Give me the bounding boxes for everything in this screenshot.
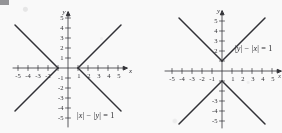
right-ytick-label--5: -5 (212, 117, 218, 124)
figure-root: -5 -4 -3 -2 1 2 3 4 5 5 4 3 2 1 -1 -2 -3… (0, 0, 282, 133)
left-eq-equals: = (103, 111, 108, 120)
right-ytick-label-5: 5 (214, 17, 218, 24)
left-eq-bar-close-1: | (83, 111, 85, 120)
left-xtick-label-1: 1 (77, 72, 80, 79)
left-curve-branch-left-upper (15, 25, 58, 68)
plot-panel-left: -5 -4 -3 -2 1 2 3 4 5 5 4 3 2 1 -1 -2 -3… (0, 0, 141, 133)
right-eq-rhs: 1 (268, 44, 272, 53)
left-ytick-label-2: 2 (60, 44, 63, 51)
right-plot-svg: -5 -4 -3 -2 -1 1 2 3 4 5 5 4 3 2 -3 -4 -… (141, 0, 282, 133)
left-xtick-label--3: -3 (35, 72, 41, 79)
left-ytick-label-1: 1 (60, 54, 63, 61)
left-ytick-label--1: -1 (58, 74, 64, 81)
left-ytick-label--4: -4 (58, 104, 64, 111)
left-eq-operator: − (87, 111, 92, 120)
plot-panel-right: -5 -4 -3 -2 -1 1 2 3 4 5 5 4 3 2 -3 -4 -… (141, 0, 282, 133)
left-eq-bar-close-2: | (99, 111, 101, 120)
left-plot-svg: -5 -4 -3 -2 1 2 3 4 5 5 4 3 2 1 -1 -2 -3… (0, 0, 141, 133)
right-y-axis-label: y (216, 7, 221, 15)
right-xtick-label-1: 1 (231, 75, 234, 82)
right-curve-branch-upper-right (222, 18, 265, 61)
left-xtick-label-3: 3 (97, 72, 101, 79)
right-eq-bar-close-1: | (241, 44, 243, 53)
right-xtick-label-2: 2 (241, 75, 244, 82)
right-equation-label: |y| − |x| = 1 (235, 44, 272, 53)
left-curve-branch-right-upper (78, 25, 121, 68)
right-curve-branch-lower-right (222, 81, 265, 124)
left-eq-rhs: 1 (110, 111, 114, 120)
right-xtick-label--5: -5 (169, 75, 175, 82)
right-y-axis-arrow (220, 11, 223, 15)
scan-artifact-corner (0, 0, 9, 5)
right-xtick-label-3: 3 (251, 75, 255, 82)
left-xtick-label-2: 2 (87, 72, 90, 79)
left-xtick-label--5: -5 (15, 72, 21, 79)
left-xtick-label--2: -2 (45, 72, 51, 79)
right-xtick-label--1: -1 (209, 75, 215, 82)
left-ytick-label-4: 4 (60, 24, 64, 31)
right-xtick-label--2: -2 (199, 75, 205, 82)
right-xtick-label-5: 5 (271, 75, 275, 82)
right-eq-operator: − (245, 44, 250, 53)
left-x-axis-arrow (123, 66, 127, 69)
right-ytick-label--4: -4 (212, 107, 218, 114)
left-ytick-label--2: -2 (58, 84, 64, 91)
left-ytick-label--5: -5 (58, 114, 64, 121)
left-ytick-label--3: -3 (58, 94, 64, 101)
left-xtick-label-5: 5 (117, 72, 121, 79)
right-eq-equals: = (261, 44, 266, 53)
right-ytick-label-4: 4 (214, 27, 218, 34)
right-x-axis-label: x (277, 72, 282, 80)
right-eq-bar-close-2: | (257, 44, 259, 53)
left-xtick-label--4: -4 (25, 72, 31, 79)
right-ytick-label-2: 2 (214, 47, 217, 54)
left-y-axis-arrow (66, 12, 69, 16)
left-equation-label: |x| − |y| = 1 (77, 111, 114, 120)
right-xtick-label--4: -4 (179, 75, 185, 82)
left-xtick-label-4: 4 (107, 72, 111, 79)
left-x-axis-label: x (128, 67, 133, 75)
left-y-axis-label: y (62, 8, 67, 16)
right-xtick-label--3: -3 (189, 75, 195, 82)
right-xtick-label-4: 4 (261, 75, 265, 82)
right-ytick-label-3: 3 (214, 37, 218, 44)
left-ytick-label-3: 3 (60, 34, 64, 41)
right-ytick-label--3: -3 (212, 97, 218, 104)
